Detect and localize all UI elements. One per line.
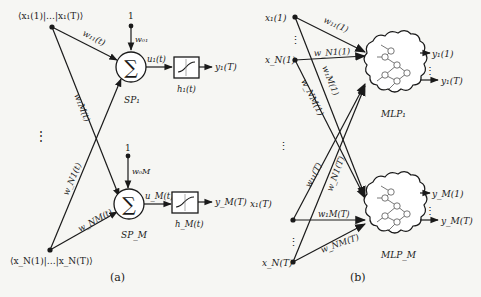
output-label-M: y_M(T) — [214, 197, 247, 208]
caption-a: (a) — [110, 271, 125, 284]
weight-label-wNM-T: w_NM(T) — [319, 232, 360, 256]
weight-label-wNM-1: w_NM(1) — [298, 77, 326, 117]
activation-label-1: h₁(t) — [177, 84, 196, 94]
ellipsis-vertical: ⋮ — [35, 129, 47, 143]
mlp1-output-T: y₁(T) — [440, 76, 463, 86]
weight-label-wNM: w_NM(t) — [76, 207, 114, 235]
sigma-icon: ∑ — [122, 193, 136, 215]
mlp-M: y_M(1) ⋮ y_M(T) MLP_M — [364, 172, 473, 261]
panel-b: x₁(1) ⋮ x_N(1) ⋮ x₁(T) ⋮ x_N(T) w₁₁(1) w… — [250, 13, 473, 284]
edge-w1M-1 — [295, 17, 365, 196]
bias-value-M: 1 — [125, 143, 131, 153]
net-label-1: u₁(t) — [147, 54, 166, 64]
net-label-M: u_M(t) — [145, 191, 173, 202]
mlp1-label: MLP₁ — [380, 109, 406, 119]
input-xN-T: x_N(T) — [262, 258, 293, 269]
weight-label-w11-1: w₁₁(1) — [322, 15, 350, 35]
input-bottom-label: ⟨x_N(1)|…|x_N(T)⟩ — [10, 256, 93, 267]
node-label-1: SP₁ — [124, 95, 140, 105]
weight-label-w1M-1: w₁M(1) — [320, 64, 341, 97]
activation-label-M: h_M(t) — [175, 219, 203, 230]
summing-unit-M: 1 w₀M ∑ SP_M u_M(t) h_M(t) y_M(T) — [114, 143, 247, 241]
mlpM-output-T: y_M(T) — [440, 216, 473, 227]
bias-weight-M: w₀M — [132, 167, 151, 176]
ellipsis-vertical: ⋮ — [288, 236, 299, 249]
mlpM-output-1: y_M(1) — [431, 189, 464, 200]
weight-label-w11: w₁₁(t) — [81, 28, 107, 48]
mlp-1: y₁(1) ⋮ y₁(T) MLP₁ — [364, 31, 463, 119]
weight-label-wN1: w_N1(t) — [61, 161, 85, 197]
sigma-icon: ∑ — [124, 56, 138, 78]
node-label-M: SP_M — [121, 230, 148, 241]
input-x1-1: x₁(1) — [265, 13, 287, 23]
summing-unit-1: 1 w₀₁ ∑ SP₁ u₁(t) h₁(t) y₁(T) — [116, 11, 237, 105]
weight-label-w11-T: w₁₁(T) — [303, 161, 324, 189]
ellipsis-vertical-mid: ⋮ — [278, 140, 289, 153]
mlpM-label: MLP_M — [380, 250, 417, 261]
caption-b: (b) — [350, 271, 366, 284]
ellipsis-vertical: ⋮ — [425, 205, 435, 216]
input-x1-T: x₁(T) — [250, 199, 272, 209]
input-top-label: ⟨x₁(1)|…|x₁(T)⟩ — [18, 11, 83, 22]
bias-value-1: 1 — [128, 11, 134, 21]
weight-label-w1M-T: w₁M(T) — [318, 209, 350, 219]
weight-label-wN1-T: w_N1(T) — [324, 155, 347, 193]
input-xN-1: x_N(1) — [265, 55, 296, 66]
activation-box-1 — [174, 57, 199, 78]
panel-a: ⟨x₁(1)|…|x₁(T)⟩ ⟨x_N(1)|…|x_N(T)⟩ ⋮ w₁₁(… — [10, 11, 247, 284]
bias-weight-1: w₀₁ — [135, 35, 148, 44]
ellipsis-vertical: ⋮ — [290, 34, 301, 47]
output-label-1: y₁(T) — [214, 62, 237, 72]
mlp1-output-1: y₁(1) — [431, 49, 454, 59]
ellipsis-vertical: ⋮ — [425, 65, 435, 76]
figure-sp-vs-mlp: ⟨x₁(1)|…|x₁(T)⟩ ⟨x_N(1)|…|x_N(T)⟩ ⋮ w₁₁(… — [0, 0, 481, 297]
weight-label-w1M: w₁M(t) — [72, 92, 92, 123]
